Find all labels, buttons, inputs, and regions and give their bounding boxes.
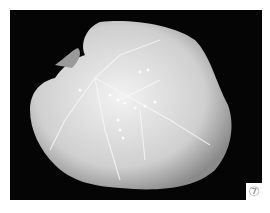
panel-label: ⑦ xyxy=(246,183,262,200)
leaf-illustration xyxy=(10,10,262,200)
leaf-photo xyxy=(10,10,262,200)
